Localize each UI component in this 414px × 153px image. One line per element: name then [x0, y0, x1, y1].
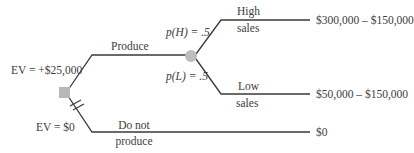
high-sales-label-line2: sales	[237, 22, 259, 35]
high-sales-label-line1: High	[237, 5, 260, 18]
ev-produce-label: EV = +$25,000	[11, 64, 82, 77]
chance-node-circle-icon	[185, 50, 197, 62]
ev-do-not-produce-label: EV = $0	[36, 121, 75, 134]
high-sales-payoff: $300,000 – $150,000	[316, 14, 414, 27]
do-not-produce-payoff: $0	[316, 126, 328, 139]
high-probability-label: p(H) = .5	[166, 26, 210, 39]
low-probability-label: p(L) = .5	[166, 70, 208, 83]
do-not-produce-label-line1: Do not	[112, 119, 156, 132]
do-not-produce-label-line2: produce	[109, 135, 159, 148]
low-sales-label-line2: sales	[236, 97, 258, 110]
low-sales-payoff: $50,000 – $150,000	[316, 88, 408, 101]
do-not-produce-branch-line	[68, 96, 310, 132]
decision-node-square-icon	[59, 87, 70, 98]
low-sales-label-line1: Low	[238, 80, 259, 93]
produce-branch-label: Produce	[111, 40, 149, 53]
